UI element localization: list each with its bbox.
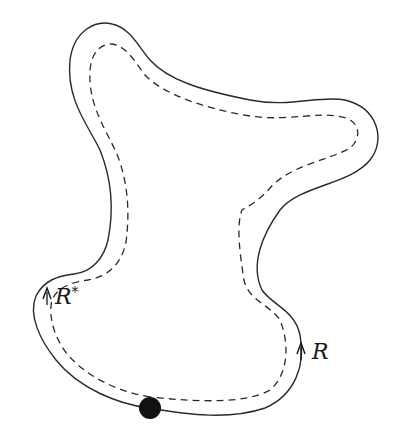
label-r-base: R — [312, 339, 329, 364]
label-r-star-sup: * — [72, 284, 79, 300]
diagram-canvas — [0, 0, 406, 442]
arrow-up-icon-r-star — [43, 288, 51, 305]
label-r-star-base: R — [55, 284, 72, 309]
marked-point — [139, 397, 161, 419]
label-r: R — [312, 341, 329, 363]
label-r-star: R* — [55, 286, 79, 308]
